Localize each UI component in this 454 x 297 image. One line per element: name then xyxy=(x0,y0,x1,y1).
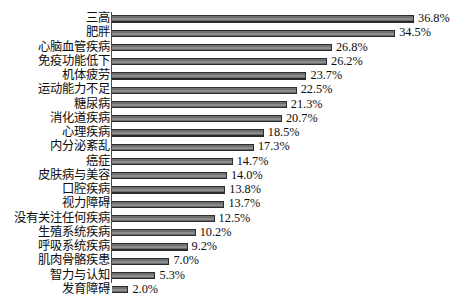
bar xyxy=(112,87,297,94)
value-label: 5.3% xyxy=(159,268,185,282)
bar-track: 34.5% xyxy=(112,26,454,40)
value-label: 9.2% xyxy=(192,239,218,253)
bar-track: 26.8% xyxy=(112,41,454,55)
bar-track: 7.0% xyxy=(112,254,454,268)
bar-track: 22.5% xyxy=(112,83,454,97)
bar xyxy=(112,286,128,293)
category-label: 糖尿病 xyxy=(0,97,110,111)
bar-row: 内分泌紊乱17.3% xyxy=(0,140,454,154)
bar-track: 2.0% xyxy=(112,283,454,297)
bar xyxy=(112,172,227,179)
value-label: 12.5% xyxy=(219,211,251,225)
chart-title-remnant xyxy=(0,0,454,6)
value-label: 13.7% xyxy=(228,196,260,210)
bar-track: 13.7% xyxy=(112,197,454,211)
value-label: 14.7% xyxy=(237,154,269,168)
category-label: 视力障碍 xyxy=(0,196,110,210)
category-label: 心理疾病 xyxy=(0,125,110,139)
plot-area: 三高36.8%肥胖34.5%心脑血管疾病26.8%免疫功能低下26.2%机体疲劳… xyxy=(0,12,454,288)
bar-rows: 三高36.8%肥胖34.5%心脑血管疾病26.8%免疫功能低下26.2%机体疲劳… xyxy=(0,12,454,297)
bar-track: 20.7% xyxy=(112,112,454,126)
bar xyxy=(112,58,327,65)
category-label: 呼吸系统疾病 xyxy=(0,239,110,253)
bar-row: 没有关注任何疾病12.5% xyxy=(0,212,454,226)
category-label: 内分泌紊乱 xyxy=(0,139,110,153)
bar xyxy=(112,72,306,79)
bar-track: 21.3% xyxy=(112,98,454,112)
bar-track: 18.5% xyxy=(112,126,454,140)
bar-track: 26.2% xyxy=(112,55,454,69)
bar xyxy=(112,101,287,108)
bar-track: 14.0% xyxy=(112,169,454,183)
bar-track: 13.8% xyxy=(112,183,454,197)
category-label: 免疫功能低下 xyxy=(0,54,110,68)
bar xyxy=(112,144,254,151)
bar xyxy=(112,158,233,165)
bar-row: 肥胖34.5% xyxy=(0,26,454,40)
bar-row: 癌症14.7% xyxy=(0,155,454,169)
bar-row: 皮肤病与美容14.0% xyxy=(0,169,454,183)
bar xyxy=(112,115,282,122)
category-label: 三高 xyxy=(0,11,110,25)
bar-track: 10.2% xyxy=(112,226,454,240)
value-label: 10.2% xyxy=(200,225,232,239)
bar xyxy=(112,243,188,250)
bar xyxy=(112,186,225,193)
bar xyxy=(112,30,395,37)
category-label: 口腔疾病 xyxy=(0,182,110,196)
bar xyxy=(112,15,414,22)
bar-track: 14.7% xyxy=(112,155,454,169)
value-label: 20.7% xyxy=(286,111,318,125)
bar-row: 运动能力不足22.5% xyxy=(0,83,454,97)
bar-row: 糖尿病21.3% xyxy=(0,98,454,112)
bar-track: 23.7% xyxy=(112,69,454,83)
category-label: 肥胖 xyxy=(0,25,110,39)
category-label: 智力与认知 xyxy=(0,268,110,282)
value-label: 26.2% xyxy=(331,54,363,68)
value-label: 2.0% xyxy=(132,282,158,296)
bar xyxy=(112,229,196,236)
bar-track: 17.3% xyxy=(112,140,454,154)
value-label: 18.5% xyxy=(268,125,300,139)
bar-row: 机体疲劳23.7% xyxy=(0,69,454,83)
bar xyxy=(112,44,332,51)
bar-row: 三高36.8% xyxy=(0,12,454,26)
category-label: 运动能力不足 xyxy=(0,82,110,96)
category-label: 没有关注任何疾病 xyxy=(0,211,110,225)
category-label: 消化道疾病 xyxy=(0,111,110,125)
value-label: 13.8% xyxy=(229,182,261,196)
bar xyxy=(112,258,169,265)
bar-row: 智力与认知5.3% xyxy=(0,269,454,283)
bar-row: 消化道疾病20.7% xyxy=(0,112,454,126)
bar-track: 9.2% xyxy=(112,240,454,254)
bar xyxy=(112,272,155,279)
value-label: 17.3% xyxy=(258,139,290,153)
bar-row: 视力障碍13.7% xyxy=(0,197,454,211)
value-label: 26.8% xyxy=(336,40,368,54)
bar-row: 肌肉骨骼疾患7.0% xyxy=(0,254,454,268)
bar-row: 生殖系统疾病10.2% xyxy=(0,226,454,240)
bar-row: 免疫功能低下26.2% xyxy=(0,55,454,69)
value-label: 36.8% xyxy=(418,11,450,25)
bar xyxy=(112,129,264,136)
value-label: 22.5% xyxy=(301,82,333,96)
value-label: 34.5% xyxy=(399,25,431,39)
bar xyxy=(112,201,224,208)
value-label: 14.0% xyxy=(231,168,263,182)
category-label: 发育障碍 xyxy=(0,282,110,296)
bar-row: 发育障碍2.0% xyxy=(0,283,454,297)
bar-track: 12.5% xyxy=(112,212,454,226)
category-label: 肌肉骨骼疾患 xyxy=(0,253,110,267)
value-label: 7.0% xyxy=(173,253,199,267)
category-label: 心脑血管疾病 xyxy=(0,40,110,54)
bar-track: 36.8% xyxy=(112,12,454,26)
category-label: 生殖系统疾病 xyxy=(0,225,110,239)
value-label: 21.3% xyxy=(291,97,323,111)
bar xyxy=(112,215,215,222)
value-label: 23.7% xyxy=(310,68,342,82)
category-label: 机体疲劳 xyxy=(0,68,110,82)
bar-row: 心脑血管疾病26.8% xyxy=(0,41,454,55)
bar-track: 5.3% xyxy=(112,269,454,283)
category-label: 皮肤病与美容 xyxy=(0,168,110,182)
